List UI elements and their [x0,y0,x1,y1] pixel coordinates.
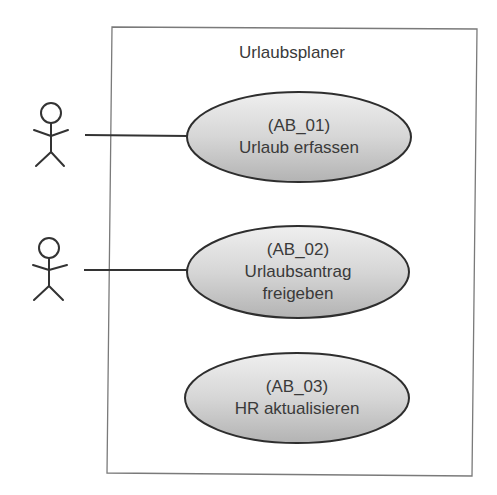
use-case-name: Urlaub erfassen [239,138,359,157]
use-case-ab-02[interactable]: (AB_02) Urlaubsantrag freigeben [187,226,409,318]
use-case-name-line2: freigeben [263,284,334,303]
use-case-name: Urlaubsantrag [245,262,352,281]
system-title: Urlaubsplaner [239,43,345,62]
actor-2[interactable] [33,238,67,300]
use-case-name: HR aktualisieren [235,399,360,418]
actor-head-icon [41,103,61,123]
use-case-id: (AB_02) [267,240,329,259]
use-case-id: (AB_03) [266,377,328,396]
use-case-ab-03[interactable]: (AB_03) HR aktualisieren [185,353,409,443]
use-case-id: (AB_01) [268,116,330,135]
actor-head-icon [39,238,59,258]
use-case-diagram: Urlaubsplaner (AB_01) Urlaub erfassen (A… [0,0,497,495]
use-case-ab-01[interactable]: (AB_01) Urlaub erfassen [187,92,411,182]
association-line-1 [85,135,188,136]
actor-1[interactable] [34,103,68,166]
